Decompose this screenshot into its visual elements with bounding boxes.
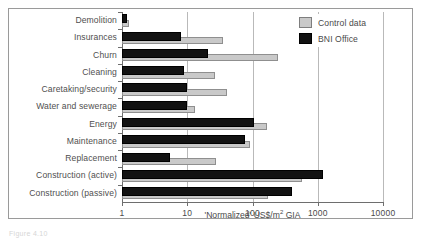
- gridline-10000: [383, 12, 384, 202]
- x-tick-1000: [318, 202, 319, 206]
- chart-legend: Control dataBNI Office: [296, 14, 370, 47]
- x-tick-label-10000: 10000: [371, 208, 396, 218]
- figure-container: DemolitionInsurancesChurnCleaningCaretak…: [0, 0, 423, 247]
- legend-item-bni: BNI Office: [299, 33, 366, 44]
- category-label-0: Demolition: [75, 16, 117, 25]
- x-tick-label-1000: 1000: [308, 208, 328, 218]
- category-label-7: Maintenance: [67, 137, 117, 146]
- legend-item-control: Control data: [299, 17, 366, 28]
- x-tick-10: [187, 202, 188, 206]
- x-tick-label-1: 1: [120, 208, 125, 218]
- x-axis-title-superscript: 2: [280, 209, 283, 215]
- category-label-8: Replacement: [65, 154, 117, 163]
- legend-label-bni: BNI Office: [318, 34, 358, 44]
- category-label-10: Construction (passive): [29, 189, 117, 198]
- y-axis-category-labels: DemolitionInsurancesChurnCleaningCaretak…: [0, 12, 122, 202]
- category-label-4: Caretaking/security: [42, 85, 117, 94]
- category-label-6: Energy: [89, 120, 117, 129]
- category-label-3: Cleaning: [82, 68, 117, 77]
- legend-label-control: Control data: [318, 18, 366, 28]
- x-tick-label-100: 100: [245, 208, 260, 218]
- category-label-2: Churn: [93, 51, 117, 60]
- x-tick-1: [122, 202, 123, 206]
- category-label-5: Water and sewerage: [36, 102, 117, 111]
- legend-swatch-bni: [299, 33, 312, 44]
- category-label-9: Construction (active): [36, 171, 117, 180]
- category-label-1: Insurances: [74, 33, 117, 42]
- x-tick-100: [253, 202, 254, 206]
- x-tick-label-10: 10: [182, 208, 192, 218]
- x-tick-10000: [383, 202, 384, 206]
- legend-swatch-control: [299, 17, 312, 28]
- figure-caption: Figure 4.10: [9, 230, 48, 237]
